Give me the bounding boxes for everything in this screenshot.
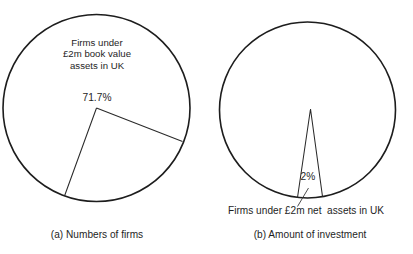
pie-a-inner-label: Firms under £2m book value assets in UK — [42, 37, 152, 71]
pie-b-note-label: Firms under £2m net assets in UK — [198, 205, 413, 216]
pie-b-percent-label: 2% — [291, 171, 325, 182]
pie-a-percent-label: 71.7% — [58, 92, 136, 103]
panel-b-caption: (b) Amount of investment — [222, 229, 398, 240]
figure-root: Firms under £2m book value assets in UK … — [0, 0, 413, 254]
panel-a-caption: (a) Numbers of firms — [12, 229, 182, 240]
